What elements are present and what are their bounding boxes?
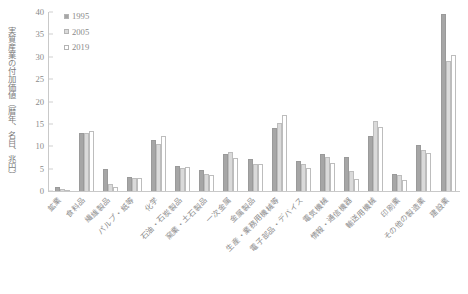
legend-item: 2019	[64, 43, 89, 52]
bar	[306, 168, 311, 191]
bar-group	[436, 12, 460, 191]
y-tick-label: 25	[35, 74, 49, 84]
legend-item: 1995	[64, 12, 89, 21]
chart-legend: 199520052019	[64, 12, 89, 52]
bar	[426, 153, 431, 191]
y-tick-label: 5	[40, 164, 49, 174]
bar	[282, 115, 287, 191]
bar	[451, 55, 456, 191]
bar	[185, 167, 190, 191]
y-tick-label: 10	[35, 141, 49, 151]
x-label-slot: 建設業	[436, 193, 460, 292]
bar	[209, 175, 214, 191]
legend-item: 2005	[64, 28, 89, 37]
bar-group	[219, 12, 243, 191]
bar-group	[291, 12, 315, 191]
bar	[113, 187, 118, 191]
bar	[402, 180, 407, 191]
legend-label: 2019	[72, 43, 89, 52]
y-tick-label: 40	[35, 7, 49, 17]
bar	[354, 179, 359, 191]
legend-label: 2005	[72, 28, 89, 37]
bar-chart: 実質産業の付加価値（暦年、名目、兆円） 0510152025303540 199…	[0, 0, 468, 294]
bar-group	[147, 12, 171, 191]
y-axis-title: 実質産業の付加価値（暦年、名目、兆円）	[2, 8, 18, 198]
legend-swatch-icon	[64, 14, 69, 19]
x-label-slot: パルプ・紙等	[121, 193, 145, 292]
bar	[233, 158, 238, 191]
bar	[89, 131, 94, 191]
bar-group	[340, 12, 364, 191]
legend-swatch-icon	[64, 29, 69, 34]
bar-group	[315, 12, 339, 191]
y-tick-label: 30	[35, 52, 49, 62]
bar	[161, 136, 166, 191]
bars-layer	[50, 12, 460, 191]
bar-group	[364, 12, 388, 191]
legend-swatch-icon	[64, 45, 69, 50]
x-axis-label: 鉱業	[47, 197, 64, 214]
bar-group	[195, 12, 219, 191]
y-tick-label: 15	[35, 119, 49, 129]
plot-area: 0510152025303540	[48, 12, 460, 192]
legend-label: 1995	[72, 12, 89, 21]
bar-group	[412, 12, 436, 191]
bar-group	[122, 12, 146, 191]
bar	[258, 164, 263, 191]
bar-group	[243, 12, 267, 191]
bar-group	[267, 12, 291, 191]
bar	[65, 190, 70, 191]
x-axis-labels: 鉱業食料品繊維製品パルプ・紙等化学石油・石炭製品窯業・土石製品一次金属金属製品生…	[48, 193, 460, 292]
y-tick-label: 35	[35, 29, 49, 39]
bar-group	[171, 12, 195, 191]
bar-group	[388, 12, 412, 191]
x-axis-label: 化学	[144, 197, 161, 214]
bar	[137, 178, 142, 191]
bar-group	[98, 12, 122, 191]
y-tick-label: 20	[35, 97, 49, 107]
bar	[378, 127, 383, 191]
bar	[330, 163, 335, 191]
